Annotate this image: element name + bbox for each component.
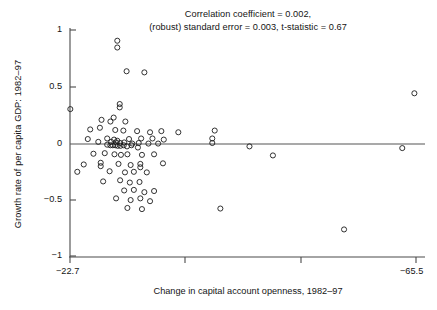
scatter-point	[97, 125, 102, 130]
scatter-point	[127, 180, 132, 185]
scatter-point	[121, 128, 126, 133]
scatter-point	[126, 136, 131, 141]
scatter-point	[108, 119, 113, 124]
scatter-series-countries	[68, 38, 417, 232]
scatter-point	[115, 45, 120, 50]
scatter-point	[159, 129, 164, 134]
scatter-point	[270, 153, 275, 158]
scatter-point	[247, 144, 252, 149]
scatter-point	[118, 178, 123, 183]
scatter-point	[128, 162, 133, 167]
scatter-point	[115, 38, 120, 43]
scatter-point	[342, 227, 347, 232]
scatter-point	[102, 151, 107, 156]
scatter-point	[122, 188, 127, 193]
scatter-point	[152, 188, 157, 193]
scatter-point	[144, 170, 149, 175]
scatter-point	[116, 161, 121, 166]
scatter-point	[400, 146, 405, 151]
scatter-point	[81, 162, 86, 167]
scatter-point	[98, 164, 103, 169]
scatter-point	[142, 190, 147, 195]
figure-scatter-capital-account-openness: Correlation coefficient = 0.002, (robust…	[0, 0, 437, 310]
scatter-point	[122, 170, 127, 175]
scatter-point	[138, 196, 143, 201]
scatter-point	[118, 152, 123, 157]
scatter-point	[160, 161, 165, 166]
scatter-point	[113, 127, 118, 132]
scatter-point	[147, 130, 152, 135]
scatter-point	[139, 152, 144, 157]
scatter-point	[218, 206, 223, 211]
scatter-point	[91, 151, 96, 156]
scatter-point	[75, 169, 80, 174]
scatter-point	[131, 187, 136, 192]
scatter-point	[161, 137, 166, 142]
scatter-point	[117, 105, 122, 110]
scatter-point	[107, 169, 112, 174]
scatter-point	[101, 179, 106, 184]
scatter-point	[137, 179, 142, 184]
scatter-point	[131, 169, 136, 174]
scatter-point	[99, 117, 104, 122]
scatter-point	[212, 128, 217, 133]
scatter-point	[125, 152, 130, 157]
scatter-point	[412, 91, 417, 96]
scatter-point	[135, 129, 140, 134]
scatter-point	[176, 130, 181, 135]
scatter-point	[114, 196, 119, 201]
scatter-point	[124, 69, 129, 74]
scatter-point	[112, 152, 117, 157]
scatter-point	[125, 205, 130, 210]
plot-canvas	[0, 0, 437, 310]
scatter-point	[150, 136, 155, 141]
scatter-point	[139, 207, 144, 212]
scatter-point	[88, 127, 93, 132]
scatter-point	[123, 119, 128, 124]
scatter-point	[128, 198, 133, 203]
scatter-point	[85, 136, 90, 141]
scatter-point	[147, 199, 152, 204]
scatter-point	[142, 70, 147, 75]
scatter-point	[152, 152, 157, 157]
scatter-point	[138, 165, 143, 170]
